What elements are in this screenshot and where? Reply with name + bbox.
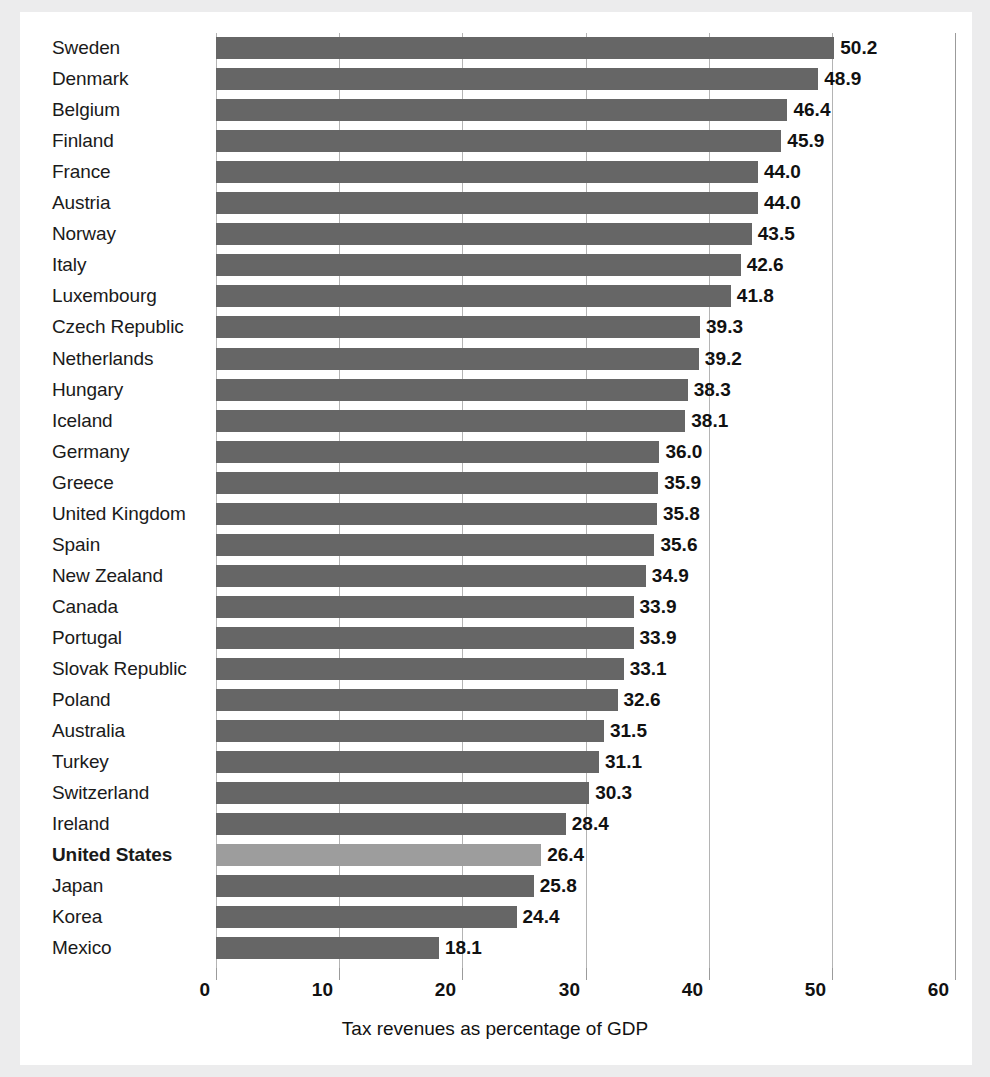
bar-row[interactable]: United Kingdom35.8 (0, 499, 990, 529)
bar (216, 410, 685, 432)
bar-category-label: Poland (52, 687, 214, 713)
bar (216, 658, 624, 680)
bar-row[interactable]: Switzerland30.3 (0, 778, 990, 808)
bar-value-label: 44.0 (764, 159, 801, 185)
bar-category-label: Iceland (52, 408, 214, 434)
x-tick-label-60: 60 (891, 978, 949, 1002)
x-tick-mark-30 (586, 968, 587, 980)
bar-row[interactable]: Turkey31.1 (0, 747, 990, 777)
bar-row[interactable]: Portugal33.9 (0, 623, 990, 653)
bar-row[interactable]: Luxembourg41.8 (0, 281, 990, 311)
bar-category-label: Luxembourg (52, 283, 214, 309)
bar-row[interactable]: Japan25.8 (0, 871, 990, 901)
bar-chart: Sweden50.2Denmark48.9Belgium46.4Finland4… (0, 0, 990, 1077)
bar-category-label: Germany (52, 439, 214, 465)
x-tick-label-40: 40 (645, 978, 703, 1002)
bar (216, 285, 731, 307)
bar (216, 565, 646, 587)
bar-category-label: Mexico (52, 935, 214, 961)
bar (216, 316, 700, 338)
bar-category-label: United Kingdom (52, 501, 214, 527)
bar-row[interactable]: Canada33.9 (0, 592, 990, 622)
bar-row[interactable]: Czech Republic39.3 (0, 312, 990, 342)
x-tick-label-20: 20 (398, 978, 456, 1002)
bar-row[interactable]: New Zealand34.9 (0, 561, 990, 591)
bar-value-label: 18.1 (445, 935, 482, 961)
bar-row[interactable]: Ireland28.4 (0, 809, 990, 839)
bar-row[interactable]: Germany36.0 (0, 437, 990, 467)
bar-category-label: Italy (52, 252, 214, 278)
bar-row[interactable]: Belgium46.4 (0, 95, 990, 125)
x-tick-label-10: 10 (275, 978, 333, 1002)
bar-row[interactable]: Australia31.5 (0, 716, 990, 746)
bar (216, 627, 634, 649)
x-tick-label-50: 50 (768, 978, 826, 1002)
bar (216, 844, 541, 866)
x-tick-mark-20 (462, 968, 463, 980)
bar-category-label: Austria (52, 190, 214, 216)
bar (216, 99, 787, 121)
bar (216, 223, 752, 245)
x-tick-mark-0 (216, 968, 217, 980)
bar-value-label: 38.1 (691, 408, 728, 434)
bar-row[interactable]: Finland45.9 (0, 126, 990, 156)
bar-category-label: Slovak Republic (52, 656, 214, 682)
bar-category-label: France (52, 159, 214, 185)
bar-value-label: 32.6 (624, 687, 661, 713)
bar-row[interactable]: Austria44.0 (0, 188, 990, 218)
bar-value-label: 35.9 (664, 470, 701, 496)
bar-value-label: 50.2 (840, 35, 877, 61)
bar (216, 937, 439, 959)
bar-row[interactable]: Hungary38.3 (0, 375, 990, 405)
bar (216, 503, 657, 525)
bar-row[interactable]: Sweden50.2 (0, 33, 990, 63)
bar-row[interactable]: Slovak Republic33.1 (0, 654, 990, 684)
bar-value-label: 33.1 (630, 656, 667, 682)
bar-category-label: Switzerland (52, 780, 214, 806)
bar-category-label: Finland (52, 128, 214, 154)
bar-row[interactable]: Italy42.6 (0, 250, 990, 280)
bar-row[interactable]: Norway43.5 (0, 219, 990, 249)
bar-value-label: 30.3 (595, 780, 632, 806)
bar-category-label: United States (52, 842, 214, 868)
bar-value-label: 25.8 (540, 873, 577, 899)
bar-category-label: Spain (52, 532, 214, 558)
bar-value-label: 38.3 (694, 377, 731, 403)
bar (216, 68, 818, 90)
bar-row[interactable]: Korea24.4 (0, 902, 990, 932)
bar-row[interactable]: United States26.4 (0, 840, 990, 870)
bar-row[interactable]: France44.0 (0, 157, 990, 187)
bar (216, 534, 654, 556)
x-tick-mark-10 (339, 968, 340, 980)
bar-row[interactable]: Spain35.6 (0, 530, 990, 560)
bar-row[interactable]: Denmark48.9 (0, 64, 990, 94)
bar-category-label: Australia (52, 718, 214, 744)
x-axis-title: Tax revenues as percentage of GDP (0, 1018, 990, 1040)
bar-row[interactable]: Poland32.6 (0, 685, 990, 715)
bar-row[interactable]: Greece35.9 (0, 468, 990, 498)
bar (216, 472, 658, 494)
x-tick-mark-60 (955, 968, 956, 980)
bar-row[interactable]: Iceland38.1 (0, 406, 990, 436)
bar (216, 596, 634, 618)
bar-value-label: 39.3 (706, 314, 743, 340)
bar-row[interactable]: Mexico18.1 (0, 933, 990, 963)
bar-value-label: 34.9 (652, 563, 689, 589)
bar-value-label: 33.9 (640, 625, 677, 651)
bar (216, 130, 781, 152)
x-tick-label-0: 0 (152, 978, 210, 1002)
x-tick-mark-50 (832, 968, 833, 980)
bar (216, 348, 699, 370)
bar (216, 720, 604, 742)
bar-category-label: Ireland (52, 811, 214, 837)
bar (216, 192, 758, 214)
bar-category-label: Korea (52, 904, 214, 930)
bar (216, 689, 618, 711)
bar-category-label: Greece (52, 470, 214, 496)
page-background: Sweden50.2Denmark48.9Belgium46.4Finland4… (0, 0, 990, 1077)
bar-value-label: 35.6 (660, 532, 697, 558)
bar-category-label: Hungary (52, 377, 214, 403)
bar (216, 254, 741, 276)
bar-row[interactable]: Netherlands39.2 (0, 344, 990, 374)
bar-category-label: New Zealand (52, 563, 214, 589)
